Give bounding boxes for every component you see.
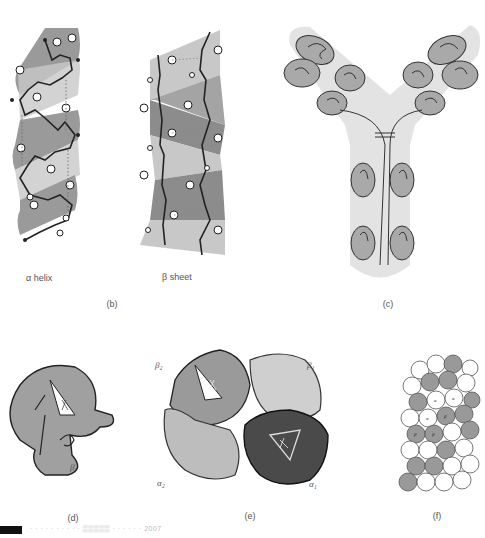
alpha-helix-label: α helix [26,273,52,283]
alpha-helix-illustration [0,0,90,260]
e-alpha1-label: α₁ [309,479,317,489]
helical-packing-illustration: α α α β β β [398,350,483,500]
d-beta-label: β [70,462,74,472]
caption-marker [0,526,22,534]
f-beta-tag-2: β [413,432,417,437]
beta-sheet-diagram [130,20,240,260]
e-beta1-label: β₁ [307,360,315,370]
panel-c-label: (c) [378,299,398,309]
f-beta-tag-1: β [443,414,447,419]
f-alpha-tag-2: α [452,396,455,401]
caption-text: · · · · · · · · · · ▒▒▒▒▒ · · · · · · 20… [30,525,162,532]
f-beta-tag-3: β [431,432,435,437]
antibody-diagram [280,15,485,275]
panel-f-label: (f) [427,511,447,521]
e-beta2-label: β₂ [155,360,163,370]
beta-subunit-illustration [0,355,120,485]
e-alpha2-label: α₂ [157,478,165,488]
beta-sheet-illustration [130,20,240,260]
panel-d-label: (d) [63,513,83,523]
panel-b-label: (b) [102,299,122,309]
hemoglobin-tetramer-diagram [150,350,350,490]
globin-beta-subunit-diagram [0,355,120,485]
helical-packing-diagram: α α α β β β [398,350,483,500]
f-alpha-tag-1: α [434,398,437,403]
antibody-illustration [280,15,485,275]
f-alpha-tag-3: α [426,416,429,421]
figure-caption-bar: · · · · · · · · · · ▒▒▒▒▒ · · · · · · 20… [0,526,485,538]
hemoglobin-illustration [150,350,350,490]
beta-sheet-label: β sheet [162,272,192,282]
alpha-helix-diagram [0,0,90,260]
panel-e-label: (e) [240,511,260,521]
